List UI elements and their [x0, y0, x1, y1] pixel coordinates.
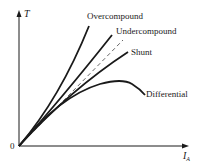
differential-label: Differential	[146, 90, 188, 99]
x-axis-label: IA	[183, 151, 190, 162]
y-axis	[17, 10, 22, 146]
origin-label: 0	[10, 142, 15, 151]
overcompound-label: Overcompound	[87, 12, 143, 21]
undercompound-label: Undercompound	[116, 27, 177, 36]
shunt-curve	[19, 52, 128, 146]
overcompound-curve	[19, 26, 89, 146]
y-axis-label: T	[24, 9, 30, 19]
x-axis	[19, 144, 189, 149]
shunt-label: Shunt	[131, 48, 152, 57]
torque-current-chart	[0, 0, 205, 166]
x-axis-label-subscript: A	[186, 156, 190, 162]
differential-curve	[19, 81, 145, 146]
